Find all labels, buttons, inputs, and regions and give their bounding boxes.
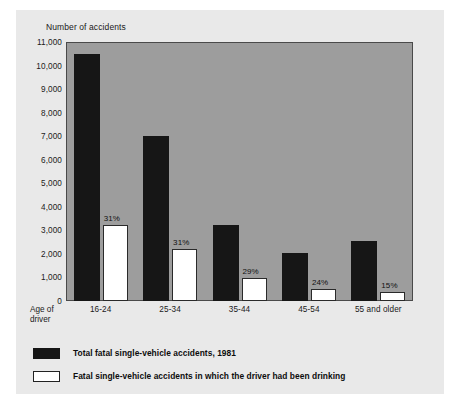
- bar-total-25-34: [143, 136, 169, 301]
- bar-percent-label: 15%: [381, 281, 397, 290]
- bar-percent-label: 31%: [104, 214, 120, 223]
- x-axis-tick-label: 16-24: [90, 305, 111, 314]
- y-axis-tick-label: 4,000: [0, 202, 62, 211]
- legend-swatch-light: [33, 371, 60, 382]
- y-axis-tick-label: 1,000: [0, 273, 62, 282]
- y-axis-tick-label: 8,000: [0, 108, 62, 117]
- y-axis-tick-label: 6,000: [0, 155, 62, 164]
- legend-swatch-dark: [33, 348, 60, 359]
- bar-percent-label: 31%: [173, 238, 189, 247]
- x-axis-tick-label: 35-44: [229, 305, 250, 314]
- chart-screenshot: Number of accidents 01,0002,0003,0004,00…: [0, 0, 457, 404]
- bar-total-35-44: [213, 225, 239, 301]
- bar-drinking-35-44: [242, 278, 267, 301]
- x-axis-tick-label: 45-54: [298, 305, 319, 314]
- legend-label-total: Total fatal single-vehicle accidents, 19…: [73, 348, 236, 358]
- y-axis-tick-label: 2,000: [0, 249, 62, 258]
- bar-drinking-55-and-older: [380, 292, 405, 301]
- y-axis-tick-label: 3,000: [0, 226, 62, 235]
- bar-total-16-24: [74, 54, 100, 301]
- x-axis-caption-line1: Age of: [30, 305, 78, 315]
- y-axis: 01,0002,0003,0004,0005,0006,0007,0008,00…: [0, 42, 62, 301]
- chart-legend: Total fatal single-vehicle accidents, 19…: [33, 344, 433, 390]
- bar-drinking-45-54: [311, 289, 336, 301]
- y-axis-tick-label: 9,000: [0, 85, 62, 94]
- bar-total-55-and-older: [351, 241, 377, 301]
- bars-layer: 31%31%29%24%15%: [66, 42, 413, 301]
- y-axis-tick-label: 10,000: [0, 61, 62, 70]
- x-axis-tick-label: 25-34: [159, 305, 180, 314]
- x-axis-caption-line2: driver: [30, 315, 78, 325]
- y-axis-tick-label: 7,000: [0, 132, 62, 141]
- x-axis-caption: Age of driver: [30, 305, 78, 325]
- bar-drinking-25-34: [172, 249, 197, 301]
- x-axis-tick-label: 55 and older: [355, 305, 402, 314]
- y-axis-tick-label: 11,000: [0, 38, 62, 47]
- bar-drinking-16-24: [103, 225, 128, 301]
- legend-item-total: Total fatal single-vehicle accidents, 19…: [33, 344, 433, 362]
- bar-percent-label: 24%: [312, 278, 328, 287]
- legend-item-drinking: Fatal single-vehicle accidents in which …: [33, 367, 433, 385]
- bar-percent-label: 29%: [243, 267, 259, 276]
- y-axis-title: Number of accidents: [46, 22, 126, 32]
- y-axis-tick-label: 5,000: [0, 179, 62, 188]
- bar-total-45-54: [282, 253, 308, 301]
- legend-label-drinking: Fatal single-vehicle accidents in which …: [73, 371, 345, 381]
- x-axis: 16-2425-3435-4445-5455 and older: [66, 303, 413, 329]
